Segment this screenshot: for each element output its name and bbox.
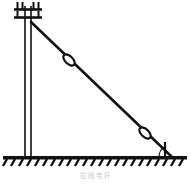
figure-caption: 拉线电杆 [0,172,191,181]
figure-container: 拉线电杆 [0,0,191,187]
pole-guywire-diagram [0,0,191,187]
